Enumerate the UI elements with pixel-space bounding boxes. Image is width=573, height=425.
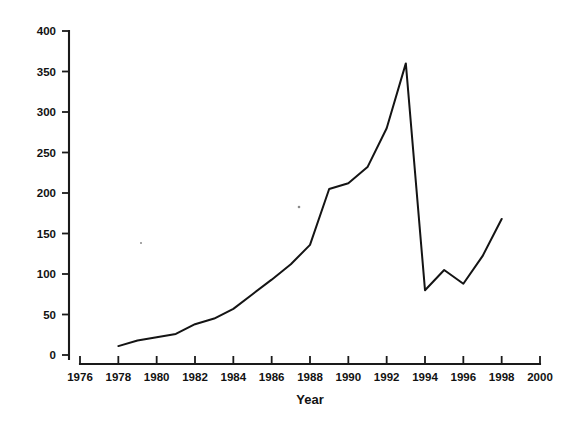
scan-speck bbox=[140, 242, 142, 244]
x-axis-title: Year bbox=[296, 392, 323, 407]
y-tick-label: 200 bbox=[37, 187, 56, 199]
x-tick-label: 1982 bbox=[182, 371, 208, 383]
y-tick-label: 150 bbox=[37, 228, 56, 240]
x-tick-label: 1994 bbox=[412, 371, 438, 383]
y-tick-label: 50 bbox=[43, 309, 56, 321]
chart-figure: 050100150200250300350400 197619781980198… bbox=[0, 0, 573, 425]
x-tick-label: 1990 bbox=[336, 371, 362, 383]
x-tick-label: 1998 bbox=[489, 371, 515, 383]
y-tick-label: 100 bbox=[37, 268, 56, 280]
y-tick-label: 0 bbox=[50, 349, 56, 361]
x-tick-label: 1988 bbox=[297, 371, 323, 383]
x-tick-label: 1980 bbox=[144, 371, 170, 383]
scan-speck bbox=[298, 206, 301, 209]
y-tick-label: 300 bbox=[37, 106, 56, 118]
x-tick-label: 1978 bbox=[106, 371, 132, 383]
x-tick-label: 1986 bbox=[259, 371, 285, 383]
y-axis-tick-labels: 050100150200250300350400 bbox=[37, 25, 56, 361]
x-axis-ticks bbox=[80, 356, 540, 364]
x-axis-tick-labels: 1976197819801982198419861988199019921994… bbox=[67, 371, 553, 383]
x-tick-label: 1984 bbox=[221, 371, 247, 383]
line-chart: 050100150200250300350400 197619781980198… bbox=[0, 0, 573, 425]
y-tick-label: 350 bbox=[37, 66, 56, 78]
x-tick-label: 1992 bbox=[374, 371, 400, 383]
x-tick-label: 1996 bbox=[451, 371, 477, 383]
y-tick-label: 250 bbox=[37, 147, 56, 159]
data-series-line bbox=[118, 63, 501, 346]
x-tick-label: 1976 bbox=[67, 371, 93, 383]
y-tick-label: 400 bbox=[37, 25, 56, 37]
x-tick-label: 2000 bbox=[527, 371, 553, 383]
